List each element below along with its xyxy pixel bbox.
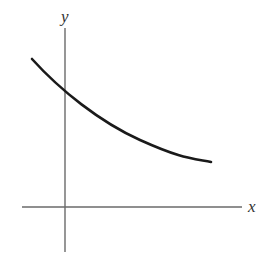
graph-canvas: y x <box>0 0 270 257</box>
y-axis-label: y <box>59 7 69 26</box>
decay-curve <box>32 59 211 162</box>
x-axis-label: x <box>247 197 256 216</box>
